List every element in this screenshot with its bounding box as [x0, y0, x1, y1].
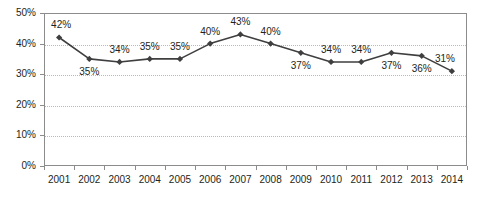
x-axis-tick-mark [195, 166, 196, 170]
y-axis-tick-label: 30% [0, 69, 36, 79]
x-axis-tick-label: 2012 [374, 174, 408, 185]
x-axis-tick-label: 2010 [314, 174, 348, 185]
data-point-label: 35% [135, 41, 165, 52]
data-point-label: 34% [346, 44, 376, 55]
y-axis-tick-label: 40% [0, 39, 36, 49]
x-axis-tick-label: 2001 [42, 174, 76, 185]
y-axis-tick-label: 10% [0, 130, 36, 140]
x-axis-tick-label: 2009 [284, 174, 318, 185]
data-point-label: 37% [376, 60, 406, 71]
x-axis-tick-mark [346, 166, 347, 170]
x-axis-tick-label: 2006 [193, 174, 227, 185]
data-point-label: 37% [286, 60, 316, 71]
x-axis-tick-mark [44, 166, 45, 170]
gridline [45, 106, 466, 107]
data-point-label: 34% [105, 44, 135, 55]
x-axis-tick-mark [407, 166, 408, 170]
x-axis-tick-mark [376, 166, 377, 170]
y-axis-tick-label: 0% [0, 161, 36, 171]
y-axis-tick-label: 50% [0, 8, 36, 18]
x-axis-tick-mark [256, 166, 257, 170]
data-point-label: 42% [46, 19, 76, 30]
data-point-label: 40% [195, 26, 225, 37]
data-point-label: 40% [256, 26, 286, 37]
x-axis-tick-mark [437, 166, 438, 170]
x-axis-tick-label: 2005 [163, 174, 197, 185]
x-axis-tick-mark [104, 166, 105, 170]
data-point-label: 35% [165, 41, 195, 52]
x-axis-tick-label: 2007 [223, 174, 257, 185]
x-axis-tick-label: 2014 [435, 174, 469, 185]
data-point-label: 34% [316, 44, 346, 55]
y-axis-tick-label: 20% [0, 100, 36, 110]
x-axis-tick-label: 2004 [133, 174, 167, 185]
x-axis-tick-label: 2008 [254, 174, 288, 185]
x-axis-tick-mark [286, 166, 287, 170]
x-axis-tick-mark [225, 166, 226, 170]
gridline [45, 75, 466, 76]
data-point-label: 36% [407, 63, 437, 74]
x-axis-tick-mark [165, 166, 166, 170]
data-point-label: 31% [430, 53, 460, 64]
x-axis-tick-label: 2013 [405, 174, 439, 185]
data-point-label: 43% [225, 16, 255, 27]
x-axis-tick-mark [74, 166, 75, 170]
x-axis-tick-label: 2003 [103, 174, 137, 185]
x-axis-tick-mark [135, 166, 136, 170]
x-axis-tick-label: 2011 [344, 174, 378, 185]
gridline [45, 136, 466, 137]
x-axis-tick-mark [316, 166, 317, 170]
data-point-label: 35% [74, 66, 104, 77]
x-axis-tick-mark [467, 166, 468, 170]
line-chart: 0%10%20%30%40%50% 2001200220032004200520… [0, 0, 482, 208]
x-axis-tick-label: 2002 [72, 174, 106, 185]
